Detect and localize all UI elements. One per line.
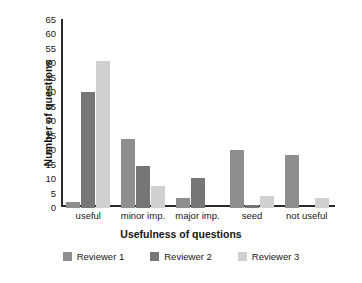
bar — [191, 178, 205, 208]
y-axis-tick-label: 20 — [34, 145, 56, 155]
x-axis-tick-labels: usefulminor imp.major imp.seednot useful — [61, 210, 334, 226]
legend-label: Reviewer 1 — [77, 251, 125, 262]
plot-area — [61, 20, 334, 208]
legend-swatch-icon — [63, 252, 72, 261]
bar — [121, 139, 135, 208]
bar-chart: Number of questions 65605550454035302520… — [0, 0, 362, 283]
y-axis-tick-label: 50 — [34, 58, 56, 68]
y-axis-tick-label: 45 — [34, 73, 56, 83]
legend-item: Reviewer 2 — [150, 251, 212, 262]
legend: Reviewer 1Reviewer 2Reviewer 3 — [0, 251, 362, 262]
y-axis-tick-label: 40 — [34, 87, 56, 97]
bar — [66, 202, 80, 208]
bar — [315, 198, 329, 208]
y-axis-tick-labels: 65605550454035302520151050 — [34, 16, 56, 212]
bar — [96, 61, 110, 209]
bar — [176, 198, 190, 208]
x-axis-tick-label: major imp. — [170, 210, 225, 222]
bar — [260, 196, 274, 208]
y-axis-tick-label: 55 — [34, 44, 56, 54]
y-axis-tick-label: 65 — [34, 15, 56, 25]
y-axis-tick-label: 30 — [34, 116, 56, 126]
x-axis-tick-label: seed — [225, 210, 280, 222]
x-axis-tick-label: not useful — [279, 210, 334, 222]
x-axis-tick-label: minor imp. — [116, 210, 171, 222]
bar — [151, 186, 165, 208]
y-axis-tick-label: 0 — [34, 203, 56, 213]
bar — [285, 155, 299, 209]
bar — [136, 166, 150, 208]
legend-swatch-icon — [150, 252, 159, 261]
legend-item: Reviewer 1 — [63, 251, 125, 262]
x-axis-tick-label: useful — [61, 210, 116, 222]
bar — [245, 205, 259, 208]
y-axis-tick-label: 5 — [34, 189, 56, 199]
y-axis-tick-label: 15 — [34, 160, 56, 170]
y-axis-tick-label: 25 — [34, 131, 56, 141]
x-axis-title: Usefulness of questions — [0, 228, 362, 240]
legend-label: Reviewer 3 — [252, 251, 300, 262]
bar — [230, 150, 244, 208]
legend-label: Reviewer 2 — [164, 251, 212, 262]
y-axis-tick-label: 60 — [34, 29, 56, 39]
legend-item: Reviewer 3 — [238, 251, 300, 262]
y-axis-tick-label: 10 — [34, 174, 56, 184]
bar — [81, 92, 95, 208]
legend-swatch-icon — [238, 252, 247, 261]
y-axis-tick-label: 35 — [34, 102, 56, 112]
